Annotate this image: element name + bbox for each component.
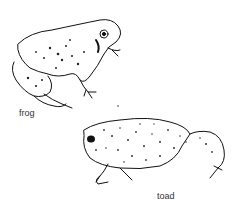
- illustration: frog toad: [0, 0, 239, 212]
- toad-eye-icon: [87, 136, 95, 143]
- frog-label: frog: [19, 108, 35, 118]
- toad-label: toad: [157, 191, 175, 201]
- frog-drawing: [0, 0, 239, 212]
